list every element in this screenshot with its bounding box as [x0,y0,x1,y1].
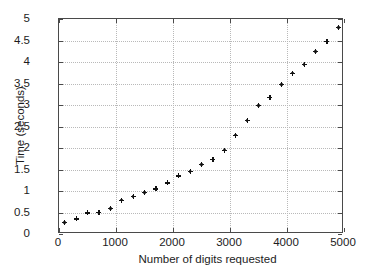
y-tick-label: 3 [0,98,30,110]
data-point [245,118,250,123]
data-point [222,148,227,153]
y-tick-label: 2.5 [0,120,30,132]
x-tick-label: 0 [28,236,88,248]
x-axis-title-text: Number of digits requested [138,253,276,265]
figure-canvas: Time (seconds) Number of digits requeste… [0,0,377,280]
data-point [313,49,318,54]
data-point [74,216,79,221]
x-tick-label: 5000 [313,236,373,248]
x-tick-label: 3000 [199,236,259,248]
y-tick-label: 3.5 [0,77,30,89]
data-point [199,162,204,167]
data-point [131,194,136,199]
data-points-layer [59,19,342,232]
y-tick-label: 4 [0,55,30,67]
x-tick-mark [344,228,345,232]
data-point [96,210,101,215]
x-axis-title: Number of digits requested [0,253,377,265]
x-tick-label: 1000 [85,236,145,248]
data-point [85,210,90,215]
y-tick-label: 0 [0,227,30,239]
data-point [256,103,261,108]
data-point [142,190,147,195]
data-point [302,62,307,67]
data-point [290,71,295,76]
x-tick-label: 4000 [256,236,316,248]
data-point [153,186,158,191]
data-point [279,82,284,87]
y-tick-label: 0.5 [0,206,30,218]
data-point [336,25,341,30]
data-point [210,157,215,162]
data-point [233,133,238,138]
y-tick-label: 4.5 [0,34,30,46]
y-tick-mark [59,234,63,235]
data-point [119,198,124,203]
data-point [165,180,170,185]
y-tick-label: 5 [0,12,30,24]
y-tick-label: 2 [0,141,30,153]
data-point [176,173,181,178]
x-tick-mark-top [344,19,345,23]
y-tick-mark-right [338,234,342,235]
data-point [324,39,329,44]
data-point [108,206,113,211]
x-tick-label: 2000 [142,236,202,248]
data-point [267,95,272,100]
data-point [62,220,67,225]
y-tick-label: 1 [0,184,30,196]
y-tick-label: 1.5 [0,163,30,175]
plot-area [58,18,343,233]
data-point [188,169,193,174]
